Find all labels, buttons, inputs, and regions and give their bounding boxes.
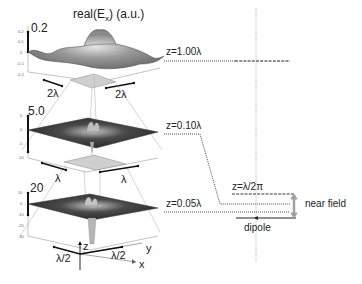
axis-y-label: y	[146, 243, 152, 254]
span-x-top: 2λ	[47, 88, 59, 99]
z-label-3: z=0.05λ	[166, 199, 201, 209]
near-field-bracket	[291, 194, 297, 218]
axis-z-label: z	[83, 241, 89, 252]
span-x-bottom: λ/2	[56, 253, 71, 264]
z-level-lines	[164, 61, 294, 212]
panel-top	[27, 26, 164, 89]
near-field-label: near field	[305, 199, 346, 209]
scale-label-top: 0.2	[31, 22, 48, 34]
axis-x-label: x	[139, 259, 145, 270]
dipole-label: dipole	[244, 223, 271, 233]
panel-middle	[27, 115, 158, 174]
plot-title: real(Ex) (a.u.)	[73, 8, 144, 23]
span-y-top: 2λ	[115, 89, 127, 100]
span-y-middle: λ	[121, 174, 127, 185]
scale-label-middle: 5.0	[28, 105, 45, 117]
span-x-middle: λ	[55, 173, 61, 184]
z-label-1: z=1.00λ	[166, 47, 201, 57]
span-y-bottom: λ/2	[111, 250, 126, 261]
z-label-2: z=0.10λ	[166, 121, 201, 131]
dipole-near-field-diagram	[0, 0, 362, 284]
z-label-near: z=λ/2π	[232, 182, 263, 192]
scale-label-bottom: 20	[30, 182, 43, 194]
